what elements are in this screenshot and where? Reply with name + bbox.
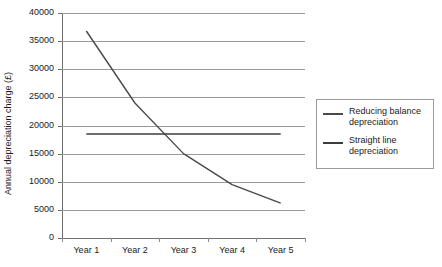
legend: Reducing balance depreciation Straight l… <box>316 99 434 169</box>
y-tick-label: 15000 <box>29 148 54 158</box>
legend-item-label: Reducing balance depreciation <box>349 106 433 128</box>
x-tick-label: Year 2 <box>122 245 148 255</box>
y-tick-label: 25000 <box>29 91 54 101</box>
y-axis-title: Annual depreciation charge (£) <box>0 0 16 267</box>
legend-line-swatch-icon <box>323 138 343 148</box>
x-tick-label: Year 4 <box>219 245 245 255</box>
series-line <box>86 31 280 203</box>
x-tick-mark <box>208 238 209 242</box>
x-tick-mark <box>62 238 63 242</box>
legend-label-line2: depreciation <box>349 146 398 156</box>
y-tick-label: 35000 <box>29 35 54 45</box>
legend-label-line1: Reducing balance <box>349 106 421 116</box>
legend-label-line1: Straight line <box>349 135 397 145</box>
legend-item-reducing-balance[interactable]: Reducing balance depreciation <box>323 106 433 128</box>
y-tick-label: 10000 <box>29 176 54 186</box>
x-tick-label: Year 5 <box>268 245 294 255</box>
x-tick-label: Year 1 <box>73 245 99 255</box>
x-tick-mark <box>111 238 112 242</box>
legend-item-straight-line[interactable]: Straight line depreciation <box>323 135 433 157</box>
legend-label-line2: depreciation <box>349 117 398 127</box>
x-tick-mark <box>159 238 160 242</box>
chart-screenshot: Annual depreciation charge (£) 050001000… <box>0 0 442 267</box>
y-tick-label: 5000 <box>34 204 54 214</box>
x-tick-mark <box>305 238 306 242</box>
series-lines <box>62 13 305 239</box>
x-tick-mark <box>256 238 257 242</box>
legend-line-swatch-icon <box>323 109 343 119</box>
legend-item-label: Straight line depreciation <box>349 135 433 157</box>
y-tick-label: 40000 <box>29 7 54 17</box>
y-tick-label: 0 <box>49 232 54 242</box>
x-tick-label: Year 3 <box>171 245 197 255</box>
y-tick-label: 30000 <box>29 63 54 73</box>
y-tick-label: 20000 <box>29 120 54 130</box>
